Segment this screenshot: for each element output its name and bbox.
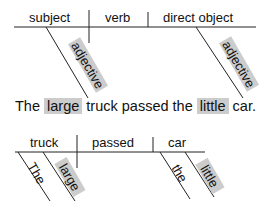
example-sentence: The large truck passed the little car. xyxy=(15,98,256,114)
example-subject: truck xyxy=(30,135,59,150)
example-modifier-the: The xyxy=(24,160,48,187)
sentence-highlight-little: little xyxy=(197,98,229,114)
sentence-word-the: The xyxy=(15,98,40,114)
label-verb: verb xyxy=(105,10,130,25)
example-verb: passed xyxy=(92,135,134,150)
label-adjective-right: adjective xyxy=(219,38,258,90)
sentence-word-car: car. xyxy=(233,98,256,114)
label-adjective-left: adjective xyxy=(68,39,107,91)
sentence-highlight-large: large xyxy=(44,98,82,114)
label-direct-object: direct object xyxy=(163,10,233,25)
example-object: car xyxy=(168,135,187,150)
example-modifier-the-object: the xyxy=(169,162,191,185)
label-subject: subject xyxy=(29,10,71,25)
sentence-middle: truck passed the xyxy=(86,98,192,114)
